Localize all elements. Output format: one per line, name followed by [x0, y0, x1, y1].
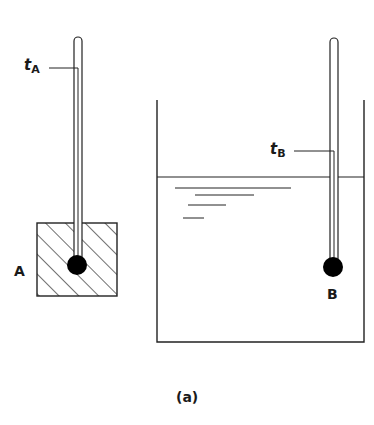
- label-object-a: A: [14, 263, 25, 279]
- thermometer-b-bulb: [323, 257, 343, 277]
- figure-caption: (a): [176, 389, 198, 405]
- diagram-canvas: tA A tB B (a): [0, 0, 374, 425]
- label-bulb-b: B: [327, 286, 338, 302]
- thermometer-b: [294, 38, 343, 277]
- label-tb: tB: [270, 140, 286, 160]
- thermometer-a-bulb: [67, 255, 87, 275]
- label-ta: tA: [24, 56, 40, 76]
